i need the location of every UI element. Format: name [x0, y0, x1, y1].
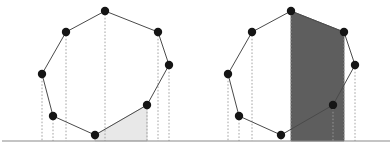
left-panel-vertex-v5 — [49, 112, 57, 120]
left-panel-vertex-v2 — [165, 61, 173, 69]
left-panel-polygon-outline — [42, 11, 169, 135]
left-panel-vertex-v4 — [91, 131, 99, 139]
left-panel-vertex-v1 — [154, 28, 162, 36]
polygon-figure-canvas — [0, 0, 392, 154]
left-panel-swept-cell — [95, 105, 147, 141]
left-panel-vertex-v7 — [62, 28, 70, 36]
right-panel-vertex-v7 — [248, 28, 256, 36]
left-panel-vertex-v3 — [143, 101, 151, 109]
right-panel-vertex-v0 — [287, 7, 295, 15]
shaded-regions-layer — [95, 11, 344, 141]
right-panel-vertex-v3 — [329, 101, 337, 109]
right-panel-vertex-v1 — [340, 28, 348, 36]
right-panel-vertex-v5 — [235, 112, 243, 120]
right-panel-vertex-v2 — [351, 61, 359, 69]
left-panel-vertex-v0 — [101, 7, 109, 15]
left-panel-vertex-v6 — [38, 70, 46, 78]
right-panel-swept-band — [291, 11, 344, 141]
right-panel-vertex-v4 — [277, 131, 285, 139]
right-panel-vertex-v6 — [224, 70, 232, 78]
